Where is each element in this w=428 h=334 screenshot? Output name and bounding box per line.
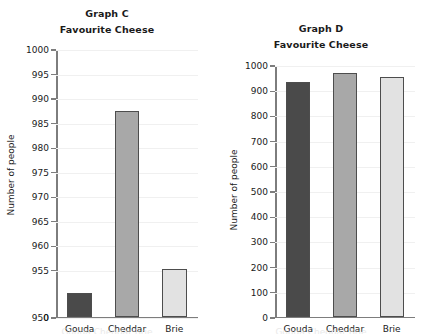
- y-axis-tick-label: 700: [251, 137, 268, 146]
- gridline: [56, 50, 198, 51]
- graph-c-y-axis-label: Number of people: [6, 125, 16, 225]
- y-axis-tick-label: 500: [251, 188, 268, 197]
- bar-cheddar: [115, 111, 140, 317]
- y-axis-tick-label: 970: [32, 193, 49, 202]
- y-axis-tick: [51, 270, 56, 271]
- y-axis-tick: [270, 65, 275, 66]
- y-axis-tick: [270, 141, 275, 142]
- graph-d-titles: Graph D Favourite Cheese: [214, 23, 428, 50]
- gridline: [56, 318, 198, 319]
- y-axis-tick-label: 955: [32, 266, 49, 275]
- y-axis-tick-label: 300: [251, 238, 268, 247]
- gridline: [56, 99, 198, 100]
- y-axis-tick-label: 960: [32, 242, 49, 251]
- graph-d-plot-area: 10009008007006005004003002001000GoudaChe…: [275, 66, 415, 318]
- bar-gouda: [67, 293, 92, 317]
- graph-d-y-axis-label: Number of people: [229, 140, 239, 240]
- graph-d-clipped-text: Gouda Cheddar Brie: [214, 327, 428, 334]
- y-axis-tick-label: 980: [32, 144, 49, 153]
- chart-figure: Graph C Favourite Cheese Number of peopl…: [0, 0, 428, 334]
- graph-c-clipped-text: Gouda Cheddar Brie: [0, 327, 214, 334]
- y-axis-tick: [51, 172, 56, 173]
- y-axis-tick: [51, 221, 56, 222]
- y-axis-tick: [270, 191, 275, 192]
- y-axis-tick: [51, 123, 56, 124]
- y-axis-tick-label: 1000: [245, 62, 268, 71]
- graph-c-plot-area: 10009959909859809759709659609559500Gouda…: [56, 50, 198, 318]
- y-axis-tick-label: 0: [262, 314, 268, 323]
- y-axis-tick-label: 995: [32, 70, 49, 79]
- gridline: [56, 75, 198, 76]
- gridline: [275, 66, 415, 67]
- y-axis-tick: [270, 267, 275, 268]
- y-axis: [56, 50, 58, 318]
- y-axis-tick-label: 100: [251, 288, 268, 297]
- y-axis-tick: [270, 317, 275, 318]
- y-axis-tick: [51, 74, 56, 75]
- y-axis-tick: [270, 217, 275, 218]
- graph-c-subtitle: Favourite Cheese: [0, 24, 214, 35]
- bar-brie: [162, 269, 187, 317]
- y-axis-tick-label: 800: [251, 112, 268, 121]
- y-axis-tick: [51, 148, 56, 149]
- y-axis-tick-label: 990: [32, 95, 49, 104]
- graph-c-title: Graph C: [0, 8, 214, 19]
- y-axis-tick: [51, 197, 56, 198]
- y-axis-tick-label: 1000: [26, 46, 49, 55]
- y-axis-tick: [270, 116, 275, 117]
- y-axis-tick-label: 975: [32, 168, 49, 177]
- y-axis-tick: [51, 246, 56, 247]
- y-axis-tick-label: 200: [251, 263, 268, 272]
- chart-panel-graph-c: Graph C Favourite Cheese Number of peopl…: [0, 0, 214, 334]
- y-axis-tick-label: 985: [32, 119, 49, 128]
- y-axis-tick: [270, 166, 275, 167]
- y-axis-tick: [270, 292, 275, 293]
- bar-brie: [380, 77, 404, 317]
- y-axis-tick-label: 600: [251, 162, 268, 171]
- y-axis-tick: [270, 242, 275, 243]
- y-axis-tick-label: 0: [43, 314, 49, 323]
- y-axis-tick-label: 965: [32, 217, 49, 226]
- y-axis-tick: [51, 98, 56, 99]
- bar-gouda: [286, 82, 310, 317]
- bar-cheddar: [333, 73, 357, 317]
- y-axis-tick-label: 900: [251, 87, 268, 96]
- y-axis-tick: [51, 49, 56, 50]
- graph-d-subtitle: Favourite Cheese: [214, 39, 428, 50]
- chart-panel-graph-d: Graph D Favourite Cheese Number of peopl…: [214, 0, 428, 334]
- graph-c-titles: Graph C Favourite Cheese: [0, 8, 214, 35]
- y-axis-tick: [270, 91, 275, 92]
- graph-d-title: Graph D: [214, 23, 428, 34]
- y-axis-tick-label: 400: [251, 213, 268, 222]
